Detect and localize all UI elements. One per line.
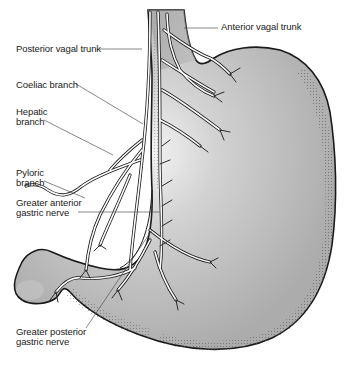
stomach-vagus-diagram bbox=[0, 0, 351, 376]
label-greater-anterior-gastric-nerve: Greater anterior gastric nerve bbox=[16, 198, 81, 218]
label-hepatic-branch: Hepatic branch bbox=[16, 107, 48, 127]
label-anterior-vagal-trunk: Anterior vagal trunk bbox=[221, 22, 301, 32]
label-pyloric-branch: Pyloric branch bbox=[16, 168, 44, 188]
label-coeliac-branch: Coeliac branch bbox=[16, 80, 78, 90]
label-posterior-vagal-trunk: Posterior vagal trunk bbox=[16, 44, 101, 54]
label-greater-posterior-gastric-nerve: Greater posterior gastric nerve bbox=[16, 327, 86, 347]
